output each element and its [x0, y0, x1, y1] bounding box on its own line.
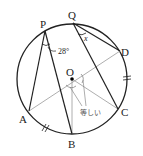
label-A: A	[19, 113, 27, 125]
segment-PA	[29, 31, 45, 111]
label-D: D	[121, 46, 129, 58]
tick-DC-2	[123, 79, 131, 80]
segment-OC	[72, 79, 118, 109]
circle-geometry-diagram: P Q D C B A O 28° x 等しい	[0, 0, 143, 156]
label-equal-note: 等しい	[80, 108, 101, 117]
label-O: O	[66, 66, 74, 78]
tick-DC-1	[123, 76, 131, 77]
label-B: B	[68, 138, 75, 150]
label-P: P	[40, 18, 46, 30]
label-Q: Q	[68, 9, 76, 21]
label-C: C	[121, 106, 128, 118]
label-x: x	[83, 34, 88, 43]
leader-equal-2	[83, 80, 86, 106]
label-28-degrees: 28°	[58, 47, 69, 56]
